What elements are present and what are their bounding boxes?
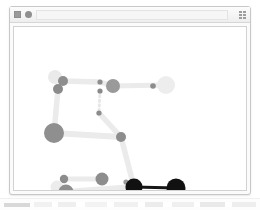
graph-node[interactable] xyxy=(126,179,143,191)
address-input[interactable] xyxy=(36,10,228,20)
graph-edge[interactable] xyxy=(63,81,100,82)
graph-node[interactable] xyxy=(97,88,102,93)
grid-menu-icon[interactable] xyxy=(239,11,246,19)
screenshot-root xyxy=(0,0,260,210)
graph-node[interactable] xyxy=(167,179,186,191)
graph-node[interactable] xyxy=(106,79,120,93)
graph-node[interactable] xyxy=(96,173,109,186)
graph-canvas[interactable] xyxy=(13,26,247,191)
taskbar-item[interactable] xyxy=(4,203,30,207)
window-titlebar[interactable] xyxy=(10,7,250,23)
graph-node[interactable] xyxy=(116,132,126,142)
graph-node[interactable] xyxy=(96,110,101,115)
graph-node[interactable] xyxy=(53,84,63,94)
graph-edge[interactable] xyxy=(66,187,134,190)
graph-svg[interactable] xyxy=(14,27,246,190)
graph-node[interactable] xyxy=(97,79,102,84)
circle-dot-icon[interactable] xyxy=(25,11,32,18)
taskbar-text-strip xyxy=(34,202,256,207)
graph-node[interactable] xyxy=(150,83,156,89)
graph-edge[interactable] xyxy=(54,133,121,137)
graph-node[interactable] xyxy=(157,76,175,94)
edge-layer xyxy=(54,81,176,190)
grid-icon[interactable] xyxy=(14,11,21,18)
graph-edge[interactable] xyxy=(99,91,100,113)
app-window xyxy=(9,6,251,195)
graph-node[interactable] xyxy=(44,123,64,143)
